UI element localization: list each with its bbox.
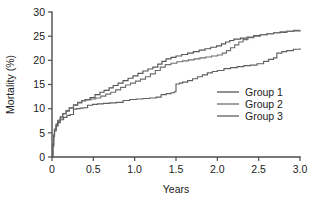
y-axis-title: Mortality (%) (4, 55, 16, 114)
x-tick-label: 2.5 (251, 163, 266, 175)
x-axis-title: Years (163, 183, 189, 195)
legend-label-2: Group 2 (245, 98, 283, 110)
y-tick-label: 5 (39, 127, 45, 139)
chart-legend: Group 1Group 2Group 3 (217, 86, 283, 122)
y-tick-label: 15 (33, 78, 45, 90)
mortality-survival-chart: 051015202530 00.51.01.52.02.53.0 Group 1… (0, 0, 312, 202)
x-tick-label: 3.0 (293, 163, 308, 175)
y-tick-label: 0 (39, 151, 45, 163)
x-axis-ticks: 00.51.01.52.02.53.0 (49, 157, 307, 175)
chart-canvas: 051015202530 00.51.01.52.02.53.0 Group 1… (0, 0, 312, 202)
x-tick-label: 0 (49, 163, 55, 175)
x-tick-label: 1.0 (127, 163, 142, 175)
y-tick-label: 30 (33, 6, 45, 18)
x-tick-label: 1.5 (169, 163, 184, 175)
y-tick-label: 20 (33, 54, 45, 66)
y-axis-ticks: 051015202530 (33, 6, 52, 163)
y-tick-label: 25 (33, 30, 45, 42)
x-tick-label: 2.0 (210, 163, 225, 175)
legend-label-1: Group 1 (245, 86, 283, 98)
x-tick-label: 0.5 (86, 163, 101, 175)
legend-label-3: Group 3 (245, 110, 283, 122)
y-tick-label: 10 (33, 102, 45, 114)
